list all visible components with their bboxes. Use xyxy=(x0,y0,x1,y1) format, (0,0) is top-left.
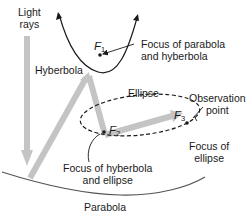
observation-point-label: Observation point xyxy=(189,92,246,116)
leader-focus-f2 xyxy=(88,134,100,162)
observation-point-line2: point xyxy=(189,104,246,116)
hyperbola-arrow-right-icon xyxy=(133,14,139,21)
focus-parabola-hyperbola-line1: Focus of parabola xyxy=(141,38,225,50)
light-rays-label: Light rays xyxy=(18,6,41,30)
optics-diagram: Light rays Hyberbola F1 Focus of parabol… xyxy=(0,0,250,217)
hyperbola-arrow-left-icon xyxy=(56,12,62,20)
focus-ellipse-line1: Focus of xyxy=(189,140,229,152)
light-rays-label-line2: rays xyxy=(18,18,41,30)
light-rays-label-line1: Light xyxy=(18,6,41,18)
focus-f3-sub: 3 xyxy=(181,114,185,123)
focus-f2-letter: F xyxy=(109,124,116,136)
hyperbola-label: Hyberbola xyxy=(35,64,83,76)
focus-parabola-hyperbola-line2: and hyberbola xyxy=(141,50,225,62)
focus-parabola-hyperbola-label: Focus of parabola and hyberbola xyxy=(141,38,225,62)
focus-f3-label: F3 xyxy=(174,109,185,125)
focus-f2-label: F2 xyxy=(109,124,120,140)
focus-hyperbola-ellipse-line1: Focus of hyberbola xyxy=(63,162,152,174)
focus-ellipse-label: Focus of ellipse xyxy=(189,140,229,164)
focus-hyperbola-ellipse-label: Focus of hyberbola and ellipse xyxy=(63,162,152,186)
leader-focus-f1 xyxy=(103,44,134,54)
focus-hyperbola-ellipse-line2: and ellipse xyxy=(63,174,152,186)
ellipse-label: Ellipse xyxy=(128,87,159,99)
focus-f3-letter: F xyxy=(174,109,181,121)
focus-f1-letter: F xyxy=(94,40,101,52)
observation-point-line1: Observation xyxy=(189,92,246,104)
focus-ellipse-line2: ellipse xyxy=(189,152,229,164)
focus-f2-point xyxy=(102,130,106,134)
focus-f2-sub: 2 xyxy=(116,129,120,138)
incoming-ray-arrowhead xyxy=(21,150,33,166)
focus-f1-label: F1 xyxy=(94,40,105,56)
focus-f3-point xyxy=(185,121,189,125)
parabola-label: Parabola xyxy=(84,201,126,213)
focus-f1-sub: 1 xyxy=(101,45,105,54)
